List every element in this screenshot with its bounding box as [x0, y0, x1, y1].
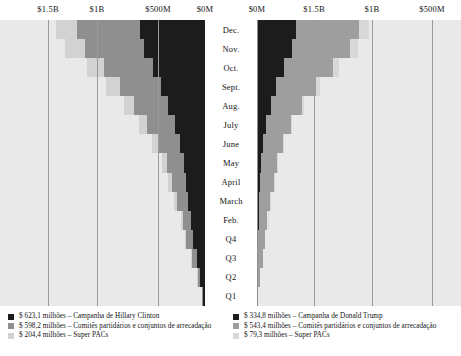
bar-segment-right-1 — [259, 192, 270, 211]
bar-segment-right-2 — [291, 115, 293, 134]
bar-segment-left-0 — [188, 192, 205, 211]
bar-segment-right-0 — [257, 58, 284, 77]
bar-segment-right-0 — [257, 20, 296, 39]
axis-tick-right-1: $1.5B — [303, 4, 325, 14]
plot-area: Dec.Nov.Oct.Sept.Aug.JulyJuneMayAprilMar… — [0, 20, 461, 306]
bar-segment-left-1 — [120, 77, 161, 96]
legend-item: $ 543,4 milhões – Comitês partidários e … — [233, 322, 461, 331]
bar-segment-left-1 — [77, 20, 140, 39]
legend-swatch — [8, 314, 14, 320]
legend-item: $ 79,3 milhões – Super PACs — [233, 331, 461, 340]
bar-segment-left-0 — [191, 211, 205, 230]
bar-segment-right-2 — [274, 173, 275, 192]
bar-segment-right-1 — [271, 96, 302, 115]
bar-segment-left-2 — [124, 96, 135, 115]
legend-label: $ 334,8 milhões – Campanha de Donald Tru… — [244, 312, 383, 321]
gridline-5 — [314, 20, 315, 306]
bar-segment-left-2 — [162, 153, 167, 172]
bar-segment-right-2 — [316, 77, 320, 96]
month-label-july: July — [205, 120, 257, 130]
legend-trump: $ 334,8 milhões – Campanha de Donald Tru… — [233, 312, 461, 341]
month-label-sept: Sept. — [205, 82, 257, 92]
legend-label: $ 543,4 milhões – Comitês partidários e … — [244, 322, 436, 331]
bar-segment-left-0 — [180, 134, 205, 153]
axis-tick-left-1: $1B — [90, 4, 105, 14]
axis-tick-right-0: $0M — [249, 4, 266, 14]
bar-segment-left-2 — [87, 58, 103, 77]
bar-segment-left-1 — [186, 230, 193, 249]
bar-segment-left-0 — [140, 20, 205, 39]
bar-segment-right-0 — [257, 96, 271, 115]
bar-segment-right-0 — [257, 115, 266, 134]
bar-segment-right-0 — [257, 77, 276, 96]
legend-item: $ 598,2 milhões – Comitês partidários e … — [8, 322, 238, 331]
month-label-nov: Nov. — [205, 44, 257, 54]
month-label-feb: Feb. — [205, 215, 257, 225]
bar-segment-right-2 — [277, 153, 278, 172]
bar-segment-right-1 — [284, 58, 333, 77]
bar-segment-left-0 — [186, 173, 205, 192]
legend-item: $ 204,4 milhões – Super PACs — [8, 331, 238, 340]
month-label-dec: Dec. — [205, 25, 257, 35]
bar-segment-left-1 — [167, 153, 184, 172]
month-label-april: April — [205, 177, 257, 187]
bar-segment-left-1 — [177, 192, 188, 211]
bar-segment-right-1 — [260, 173, 274, 192]
legend-label: $ 204,4 milhões – Super PACs — [19, 331, 108, 340]
axis-tick-right-3: $500M — [419, 4, 445, 14]
bar-segment-left-2 — [197, 268, 198, 287]
bar-segment-left-2 — [181, 211, 183, 230]
bar-segment-left-2 — [139, 115, 147, 134]
bar-segment-left-0 — [197, 249, 205, 268]
bar-segment-left-1 — [197, 268, 200, 287]
axis-label-row: $1.5B$1B$500M$0M$0M$1.5B$1B$500M — [0, 0, 461, 20]
bar-segment-right-0 — [257, 39, 292, 58]
axis-tick-left-2: $500M — [145, 4, 171, 14]
bar-segment-left-1 — [85, 39, 144, 58]
bar-segment-right-1 — [261, 153, 277, 172]
bar-segment-left-0 — [175, 115, 205, 134]
bar-segment-left-1 — [147, 115, 174, 134]
bar-segment-right-1 — [276, 77, 315, 96]
legend-item: $ 623,1 milhões – Campanha de Hillary Cl… — [8, 312, 238, 321]
bar-segment-left-2 — [106, 77, 119, 96]
gridline-0 — [48, 20, 49, 306]
bar-segment-left-0 — [161, 77, 205, 96]
bar-segment-right-2 — [333, 58, 339, 77]
bar-segment-right-2 — [350, 39, 358, 58]
bar-segment-left-0 — [193, 230, 205, 249]
bar-segment-right-2 — [283, 134, 284, 153]
bar-segment-right-1 — [292, 39, 350, 58]
bar-segment-left-2 — [191, 249, 192, 268]
legend-swatch — [233, 333, 239, 339]
axis-tick-right-2: $1B — [365, 4, 380, 14]
legend-swatch — [8, 333, 14, 339]
month-label-march: March — [205, 196, 257, 206]
bar-segment-left-2 — [65, 39, 85, 58]
bar-segment-left-2 — [168, 173, 172, 192]
bar-segment-left-1 — [202, 287, 203, 306]
bar-segment-left-1 — [104, 58, 153, 77]
legend-label: $ 623,1 milhões – Campanha de Hillary Cl… — [19, 312, 159, 321]
bar-segment-left-1 — [183, 211, 192, 230]
gridline-6 — [372, 20, 373, 306]
bar-segment-left-0 — [144, 39, 205, 58]
month-label-oct: Oct. — [205, 63, 257, 73]
legend-swatch — [233, 323, 239, 329]
bar-segment-right-1 — [258, 249, 263, 268]
bar-segment-right-1 — [259, 211, 268, 230]
bar-segment-left-1 — [172, 173, 186, 192]
bar-segment-right-1 — [263, 134, 283, 153]
legend-clinton: $ 623,1 milhões – Campanha de Hillary Cl… — [8, 312, 238, 341]
bar-segment-left-2 — [56, 20, 77, 39]
legend-swatch — [8, 323, 14, 329]
bar-segment-left-1 — [192, 249, 197, 268]
gridline-7 — [432, 20, 433, 306]
month-label-column: Dec.Nov.Oct.Sept.Aug.JulyJuneMayAprilMar… — [205, 20, 257, 306]
bar-segment-right-2 — [302, 96, 304, 115]
bar-segment-left-0 — [184, 153, 205, 172]
gridline-4 — [257, 20, 258, 306]
campaign-finance-butterfly-chart: $1.5B$1B$500M$0M$0M$1.5B$1B$500M Dec.Nov… — [0, 0, 461, 356]
month-label-q1: Q1 — [205, 291, 257, 301]
month-label-may: May — [205, 158, 257, 168]
